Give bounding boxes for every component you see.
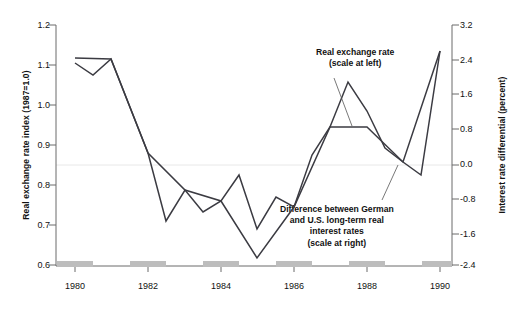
leader-line-differential xyxy=(382,165,398,200)
chart-svg xyxy=(0,0,511,310)
chart-container: Real exchange rate index (1987=1.0) Inte… xyxy=(0,0,511,310)
x-axis-ticks xyxy=(75,266,440,272)
y-axis-left-ticks xyxy=(49,25,56,265)
y-axis-right-ticks xyxy=(452,25,459,265)
series-interest-rate-differential xyxy=(75,51,440,229)
